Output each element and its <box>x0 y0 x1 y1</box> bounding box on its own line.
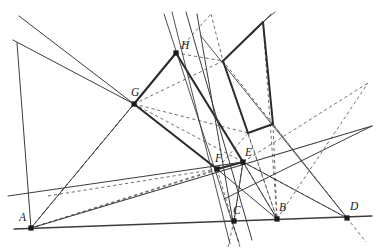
point-label-B: B <box>279 201 286 213</box>
point-label-C: C <box>233 204 241 216</box>
point-marker-D <box>344 215 349 220</box>
point-label-F: F <box>214 152 223 164</box>
point-marker-F <box>214 166 219 171</box>
geometry-canvas: ACBDEFGH <box>0 0 380 251</box>
point-label-D: D <box>349 200 359 212</box>
point-label-H: H <box>180 39 190 51</box>
geometry-figure: ACBDEFGH <box>0 0 380 251</box>
point-label-G: G <box>131 86 140 98</box>
point-label-E: E <box>244 146 252 158</box>
point-marker-E <box>240 159 245 164</box>
point-marker-A <box>28 225 33 230</box>
point-label-A: A <box>18 211 27 223</box>
point-marker-H <box>173 50 178 55</box>
point-marker-C <box>231 218 236 223</box>
point-marker-G <box>131 101 136 106</box>
point-marker-B <box>274 216 279 221</box>
